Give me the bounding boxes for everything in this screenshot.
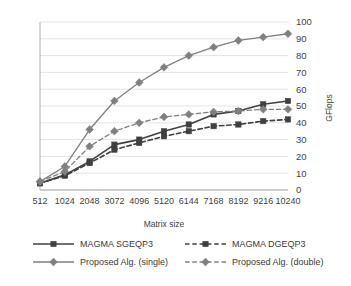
x-tick-label: 9216 [253, 196, 273, 206]
legend-label: MAGMA DGEQP3 [232, 239, 306, 249]
data-point-marker [160, 113, 168, 121]
x-tick-label: 512 [32, 196, 47, 206]
legend-item[interactable]: MAGMA DGEQP3 [185, 239, 306, 249]
y-tick-label: 70 [296, 67, 307, 78]
data-point-marker [87, 160, 92, 165]
x-tick-labels: 5121024204830724096512061447168819292161… [32, 196, 300, 206]
legend-label: Proposed Alg. (double) [232, 257, 324, 267]
data-point-marker [285, 117, 290, 122]
data-point-marker [160, 63, 168, 71]
data-point-marker [112, 147, 117, 152]
x-tick-label: 10240 [275, 196, 300, 206]
data-point-marker [51, 241, 56, 246]
series-1 [37, 98, 290, 186]
chart-legend: MAGMA SGEQP3MAGMA DGEQP3Proposed Alg. (s… [0, 232, 351, 286]
data-point-marker [185, 52, 193, 60]
legend-label: Proposed Alg. (single) [80, 257, 168, 267]
x-tick-label: 8192 [228, 196, 248, 206]
legend-label: MAGMA SGEQP3 [80, 239, 153, 249]
data-point-marker [285, 98, 290, 103]
legend-item[interactable]: Proposed Alg. (double) [185, 257, 324, 267]
y-tick-label: 10 [296, 168, 307, 179]
x-tick-label: 5120 [154, 196, 174, 206]
y-tick-label: 100 [296, 16, 312, 27]
data-point-marker [284, 30, 292, 38]
data-point-marker [211, 123, 216, 128]
data-point-marker [185, 111, 193, 119]
data-point-marker [111, 127, 119, 135]
y-tick-label: 50 [296, 100, 307, 111]
series-layer [36, 30, 292, 186]
y-tick-labels: 0102030405060708090100 [296, 16, 312, 195]
y-tick-label: 20 [296, 151, 307, 162]
y-tick-label: 90 [296, 33, 307, 44]
x-axis-title: Matrix size [144, 219, 185, 229]
y-tick-label: 80 [296, 50, 307, 61]
data-point-marker [236, 122, 241, 127]
x-tick-label: 2048 [80, 196, 100, 206]
data-point-marker [135, 119, 143, 127]
x-tick-label: 6144 [179, 196, 199, 206]
data-point-marker [261, 118, 266, 123]
data-point-marker [112, 142, 117, 147]
data-point-marker [235, 37, 243, 45]
y-axis-title: GFlops [324, 94, 334, 121]
x-tick-label: 3072 [104, 196, 124, 206]
data-point-marker [284, 105, 292, 113]
gridlines [40, 22, 288, 190]
data-point-marker [202, 258, 210, 266]
legend-item[interactable]: Proposed Alg. (single) [33, 257, 168, 267]
plot-area: 0102030405060708090100 51210242048307240… [0, 0, 351, 230]
gflops-line-chart: 0102030405060708090100 51210242048307240… [0, 0, 351, 286]
y-tick-label: 60 [296, 84, 307, 95]
data-point-marker [50, 258, 58, 266]
x-tick-label: 4096 [129, 196, 149, 206]
data-point-marker [186, 122, 191, 127]
data-point-marker [186, 129, 191, 134]
y-tick-label: 40 [296, 117, 307, 128]
y-tick-label: 0 [296, 184, 301, 195]
legend-canvas: MAGMA SGEQP3MAGMA DGEQP3Proposed Alg. (s… [0, 232, 351, 286]
y-tick-label: 30 [296, 134, 307, 145]
data-point-marker [161, 129, 166, 134]
x-tick-label: 1024 [55, 196, 75, 206]
data-point-marker [210, 43, 218, 51]
data-point-marker [137, 140, 142, 145]
data-point-marker [161, 134, 166, 139]
x-tick-label: 7168 [204, 196, 224, 206]
data-point-marker [259, 33, 267, 41]
legend-item[interactable]: MAGMA SGEQP3 [33, 239, 153, 249]
data-point-marker [203, 241, 208, 246]
chart-canvas: 0102030405060708090100 51210242048307240… [0, 0, 351, 230]
